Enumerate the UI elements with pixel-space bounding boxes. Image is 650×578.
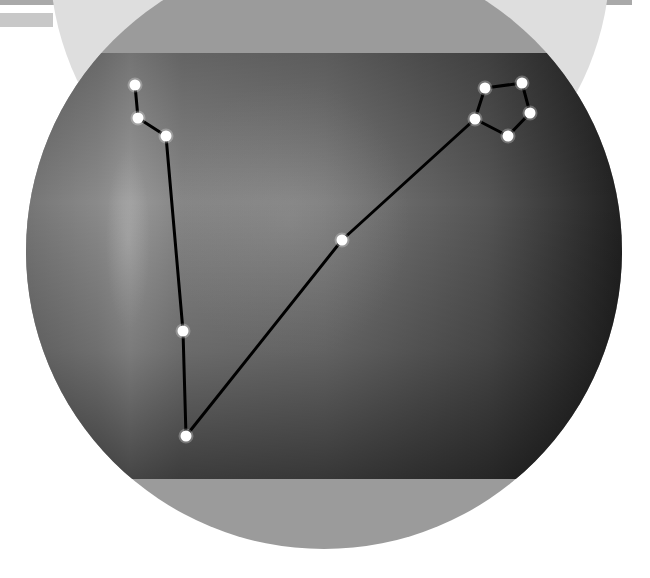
star-icon	[337, 235, 348, 246]
sky-shade	[0, 53, 650, 479]
star-icon	[517, 78, 528, 89]
star-icon	[181, 431, 192, 442]
constellation-figure	[0, 0, 650, 578]
star-icon	[178, 326, 189, 337]
constellation-svg	[0, 0, 650, 578]
star-icon	[480, 83, 491, 94]
star-icon	[503, 131, 514, 142]
star-icon	[470, 114, 481, 125]
star-icon	[130, 80, 141, 91]
star-icon	[525, 108, 536, 119]
disc	[0, 0, 650, 578]
star-icon	[133, 113, 144, 124]
star-icon	[161, 131, 172, 142]
